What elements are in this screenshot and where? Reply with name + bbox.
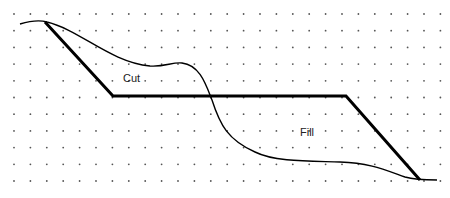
grid-dot	[226, 180, 228, 182]
grid-dot	[62, 63, 64, 65]
grid-dot	[243, 180, 245, 182]
grid-dot	[161, 13, 163, 15]
grid-dot	[341, 163, 343, 165]
grid-dot	[440, 30, 442, 32]
grid-dot	[112, 180, 114, 182]
grid-dot	[341, 147, 343, 149]
grid-dot	[440, 147, 442, 149]
grid-dot	[30, 97, 32, 99]
grid-dot	[79, 147, 81, 149]
grid-dot	[407, 180, 409, 182]
grid-dot	[358, 63, 360, 65]
grid-dot	[374, 63, 376, 65]
grid-dot	[341, 113, 343, 115]
grid-dot	[390, 63, 392, 65]
grid-dot	[226, 163, 228, 165]
grid-dot	[194, 13, 196, 15]
grid-dot	[226, 80, 228, 82]
grid-dot	[423, 30, 425, 32]
grid-dot	[423, 80, 425, 82]
design-grade-line	[45, 22, 420, 180]
grid-dot	[79, 47, 81, 49]
grid-dot	[259, 63, 261, 65]
grid-dot	[276, 80, 278, 82]
grid-dot	[407, 130, 409, 132]
grid-dot	[112, 147, 114, 149]
grid-dot	[177, 80, 179, 82]
grid-dot	[161, 147, 163, 149]
grid-dot	[95, 180, 97, 182]
grid-dot	[95, 13, 97, 15]
grid-dot	[325, 180, 327, 182]
grid-dot	[79, 180, 81, 182]
grid-dot	[79, 80, 81, 82]
grid-dot	[30, 30, 32, 32]
grid-dot	[325, 163, 327, 165]
grid-dot	[194, 30, 196, 32]
grid-dot	[423, 147, 425, 149]
grid-dot	[62, 80, 64, 82]
grid-dot	[161, 130, 163, 132]
grid-dot	[112, 30, 114, 32]
grid-dot	[62, 130, 64, 132]
grid-dot	[161, 47, 163, 49]
grid-dot	[210, 80, 212, 82]
grid-dot	[62, 163, 64, 165]
grid-dot	[325, 113, 327, 115]
grid-dot	[210, 147, 212, 149]
grid-dot	[128, 113, 130, 115]
grid-dot	[390, 97, 392, 99]
grid-dot	[423, 47, 425, 49]
grid-dot	[161, 113, 163, 115]
grid-dot	[226, 13, 228, 15]
grid-dot	[292, 47, 294, 49]
grid-dot	[95, 130, 97, 132]
grid-dot	[308, 13, 310, 15]
grid-dot	[407, 47, 409, 49]
grid-dot	[440, 113, 442, 115]
grid-dot	[95, 163, 97, 165]
grid-dot	[440, 63, 442, 65]
grid-dot	[325, 63, 327, 65]
grid-dot	[390, 113, 392, 115]
grid-dot	[177, 163, 179, 165]
grid-dot	[144, 80, 146, 82]
grid-dot	[358, 113, 360, 115]
grid-dot	[390, 30, 392, 32]
grid-dot	[79, 63, 81, 65]
grid-dot	[30, 180, 32, 182]
grid-dot	[259, 47, 261, 49]
grid-dot	[13, 13, 15, 15]
grid-dot	[161, 80, 163, 82]
grid-dot	[407, 63, 409, 65]
grid-dot	[259, 13, 261, 15]
grid-dot	[374, 113, 376, 115]
grid-dot	[62, 113, 64, 115]
cut-fill-diagram: Cut Fill	[0, 0, 450, 198]
grid-dot	[62, 147, 64, 149]
grid-dot	[30, 113, 32, 115]
grid-dot	[374, 47, 376, 49]
grid-dot	[276, 163, 278, 165]
grid-dot	[112, 13, 114, 15]
grid-dot	[308, 163, 310, 165]
grid-dot	[46, 147, 48, 149]
grid-dot	[440, 130, 442, 132]
grid-dot	[243, 30, 245, 32]
grid-dot	[308, 180, 310, 182]
grid-dot	[325, 147, 327, 149]
grid-dot	[292, 30, 294, 32]
grid-dot	[292, 63, 294, 65]
grid-dot	[161, 163, 163, 165]
grid-dot	[95, 30, 97, 32]
grid-dot	[243, 163, 245, 165]
grid-dot	[358, 13, 360, 15]
grid-dot	[194, 163, 196, 165]
grid-dot	[358, 30, 360, 32]
grid-dot	[440, 13, 442, 15]
grid-dot	[30, 47, 32, 49]
grid-dot	[407, 113, 409, 115]
grid-dot	[194, 63, 196, 65]
grid-dot	[46, 97, 48, 99]
grid-dot	[276, 30, 278, 32]
